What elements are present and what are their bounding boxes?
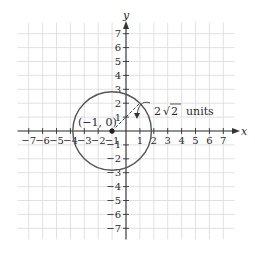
y-tick-label: −6: [106, 209, 121, 220]
y-tick-label: 2: [115, 98, 121, 109]
y-tick-label: −1: [106, 139, 121, 150]
radius-label: 2 √ 2 units: [154, 104, 214, 118]
y-tick-label: 6: [115, 42, 121, 53]
x-tick-label: −7: [21, 135, 36, 146]
axes: [18, 21, 240, 239]
center-label: (−1, 0): [78, 116, 117, 129]
x-axis-arrow-icon: [232, 128, 240, 134]
y-axis-label: y: [122, 9, 130, 22]
y-tick-label: 5: [115, 56, 121, 67]
x-tick-label: 5: [192, 135, 198, 146]
svg-text:2: 2: [154, 105, 161, 118]
y-tick-label: −4: [106, 181, 121, 192]
x-tick-label: 4: [178, 135, 184, 146]
y-tick-label: −5: [106, 195, 121, 206]
x-tick-label: −3: [77, 135, 92, 146]
svg-text:√: √: [163, 105, 171, 118]
x-tick-label: 1: [137, 135, 143, 146]
y-axis-arrow-icon: [123, 21, 129, 29]
svg-text:units: units: [186, 105, 214, 118]
x-tick-label: 6: [206, 135, 212, 146]
y-tick-label: −2: [106, 153, 121, 164]
coordinate-plane-figure: −7−6−5−4−3−2−11234567 −7−6−5−4−3−2−11234…: [0, 0, 255, 254]
svg-text:2: 2: [171, 105, 178, 118]
x-tick-label: 7: [220, 135, 226, 146]
x-tick-label: −6: [35, 135, 50, 146]
x-tick-labels: −7−6−5−4−3−2−11234567: [21, 135, 226, 146]
y-tick-label: 7: [115, 28, 121, 39]
x-tick-label: −2: [91, 135, 106, 146]
x-tick-label: −5: [49, 135, 64, 146]
y-tick-label: 4: [115, 70, 121, 81]
y-tick-label: −7: [106, 223, 121, 234]
x-tick-label: 3: [165, 135, 171, 146]
center-point: [109, 128, 114, 133]
arrowhead-icon: [134, 113, 140, 119]
x-axis-label: x: [241, 125, 248, 138]
y-tick-label: −3: [106, 167, 121, 178]
